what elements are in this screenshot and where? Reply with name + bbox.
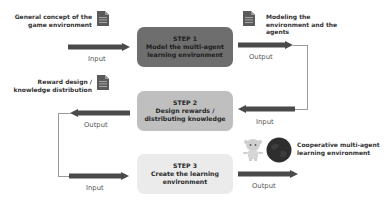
document-icon [243, 11, 255, 26]
step1-input-line2: game environment [6, 21, 92, 29]
step1-output-label: Modeling the environment and the agents [266, 13, 346, 36]
step2-output-arrow [70, 109, 130, 117]
step2-output-line1: Reward design / [6, 78, 92, 86]
step1-output-line3: agents [266, 28, 346, 36]
step3-output-text: Output [252, 182, 276, 190]
step1-output-line2: environment and the [266, 21, 346, 29]
step1-output-line1: Modeling the [266, 13, 346, 21]
step2-title-line2: distributing knowledge [144, 115, 225, 123]
step3-output-line1: Cooperative multi-agent [297, 141, 392, 149]
step1-number: STEP 1 [173, 35, 197, 43]
step2-title-line1: Design rewards / [156, 107, 215, 115]
step1-input-arrow [68, 43, 130, 51]
step2-box: STEP 2 Design rewards / distributing kno… [137, 91, 233, 131]
step1-input-line1: General concept of the [6, 13, 92, 21]
document-icon [97, 11, 109, 26]
step2-output-text: Output [84, 121, 108, 129]
step3-output-line2: learning environment [297, 149, 392, 157]
step3-input-arrow [69, 172, 129, 180]
step2-number: STEP 2 [173, 99, 197, 107]
step3-output-label: Cooperative multi-agent learning environ… [297, 141, 392, 156]
step1-box: STEP 1 Model the multi-agent learning en… [137, 27, 233, 67]
left-connector-vertical [58, 113, 59, 177]
step2-input-text: Input [256, 118, 274, 126]
step3-box: STEP 3 Create the learning environment [137, 154, 233, 194]
step2-input-arrow [238, 105, 295, 113]
step3-title-line1: Create the learning [151, 170, 219, 178]
step3-output-arrow [238, 170, 298, 178]
right-connector-top [293, 45, 308, 46]
right-connector-vertical [307, 45, 308, 110]
step1-input-label: General concept of the game environment [6, 13, 92, 28]
step1-output-arrow [238, 41, 293, 49]
globe-icon [266, 137, 292, 163]
robot-agent-icon [242, 138, 264, 162]
step2-output-label: Reward design / knowledge distribution [6, 78, 92, 93]
right-connector-bottom [293, 109, 308, 110]
step2-output-line2: knowledge distribution [6, 86, 92, 94]
step1-title-line2: learning environment [147, 51, 223, 59]
step3-number: STEP 3 [173, 162, 197, 170]
step1-title-line1: Model the multi-agent [146, 43, 224, 51]
document-icon [97, 75, 109, 90]
step3-title-line2: environment [163, 178, 207, 186]
left-connector-top [58, 113, 71, 114]
step1-output-text: Output [249, 53, 273, 61]
step1-input-text: Input [88, 55, 106, 63]
step3-input-text: Input [86, 184, 104, 192]
